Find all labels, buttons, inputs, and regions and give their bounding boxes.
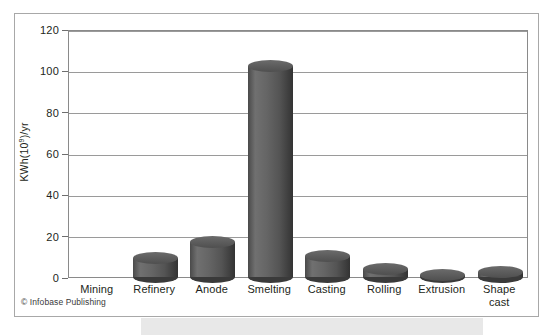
y-axis-tick-label: 80 [46, 107, 59, 119]
bar-cylinder [133, 252, 178, 277]
bar[interactable] [363, 263, 408, 277]
x-axis-label: Extrusion [413, 283, 471, 296]
bar-cylinder-top [248, 60, 293, 72]
page-bottom-band [141, 318, 483, 335]
x-axis-label-line: cast [471, 296, 529, 309]
y-axis-tick-label: 20 [46, 231, 59, 243]
gridline [69, 155, 527, 156]
x-axis-label-line: Extrusion [413, 283, 471, 296]
x-axis-label: Mining [68, 283, 126, 296]
bar[interactable] [305, 250, 350, 277]
bar-cylinder [420, 269, 465, 277]
bar-cylinder-top [363, 263, 408, 275]
x-axis-label-line: Rolling [356, 283, 414, 296]
bar[interactable] [478, 266, 523, 277]
bar[interactable] [420, 269, 465, 277]
gridline [69, 72, 527, 73]
x-axis-label: Rolling [356, 283, 414, 296]
gridline [69, 31, 527, 32]
x-axis-label: Smelting [241, 283, 299, 296]
x-axis-label-line: Smelting [241, 283, 299, 296]
bar-cylinder [305, 250, 350, 277]
bar-cylinder [248, 60, 293, 277]
x-axis-label: Refinery [126, 283, 184, 296]
plot-area [68, 30, 528, 278]
y-axis-tick-label: 40 [46, 189, 59, 201]
y-axis-tick-label: 120 [40, 24, 59, 36]
y-axis-tick-label: 100 [40, 65, 59, 77]
x-axis-label-line: Shape [471, 283, 529, 296]
x-axis-label: Shapecast [471, 283, 529, 308]
x-axis-label-line: Mining [68, 283, 126, 296]
x-axis-label: Anode [183, 283, 241, 296]
gridline [69, 113, 527, 114]
gridline [69, 237, 527, 238]
y-axis-tick-label: 0 [53, 272, 59, 284]
bar-cylinder [190, 236, 235, 277]
gridline [69, 196, 527, 197]
x-axis-label-line: Anode [183, 283, 241, 296]
x-axis-label-line: Refinery [126, 283, 184, 296]
bar-cylinder-body [248, 66, 293, 277]
figure-canvas: KWh(109)/yr 020406080100120 MiningRefine… [0, 0, 553, 335]
bar-cylinder-top [478, 266, 523, 278]
bar[interactable] [133, 252, 178, 277]
bar-cylinder-top [420, 269, 465, 281]
bar-cylinder [478, 266, 523, 277]
copyright-credit: © Infobase Publishing [21, 297, 106, 307]
x-axis-label-line: Casting [298, 283, 356, 296]
bar[interactable] [248, 60, 293, 277]
bar-cylinder-top [190, 236, 235, 248]
bar[interactable] [190, 236, 235, 277]
y-axis-tick-label: 60 [46, 148, 59, 160]
bar-cylinder [363, 263, 408, 277]
x-axis-label: Casting [298, 283, 356, 296]
y-axis: 020406080100120 [0, 0, 68, 335]
